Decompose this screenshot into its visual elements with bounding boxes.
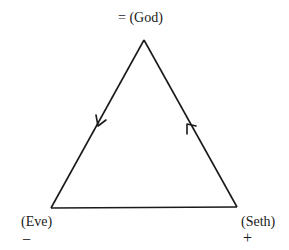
edge-eve-seth	[51, 207, 237, 208]
vertex-label-eve: (Eve)	[21, 214, 52, 230]
vertex-label-seth: (Seth)	[241, 214, 275, 230]
plus-sign: +	[243, 230, 252, 246]
triangle-svg	[0, 0, 289, 250]
triangle-diagram: = (God) (Eve) (Seth) − +	[0, 0, 289, 250]
edge-god-seth	[144, 40, 237, 207]
vertex-label-god: = (God)	[118, 10, 163, 26]
minus-sign: −	[22, 232, 31, 248]
